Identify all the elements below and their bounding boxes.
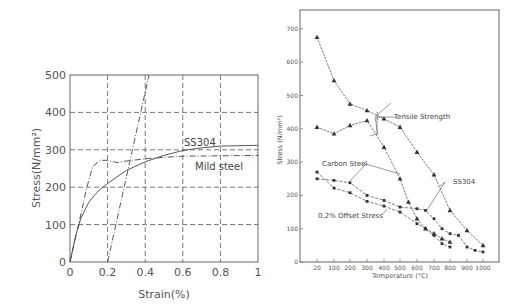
x-tick-label: 800 xyxy=(444,264,456,271)
annotation-ss304: SS304 xyxy=(453,178,476,186)
x-tick-label: 0.2 xyxy=(99,266,117,279)
y-tick-label: 400 xyxy=(287,125,299,132)
x-tick-label: 1 xyxy=(255,266,262,279)
annotation-offset-stress: 0.2% Offset Stress xyxy=(318,212,383,220)
x-tick-label: 1000 xyxy=(475,264,490,271)
data-point-ss304-0-2-offset-stress xyxy=(449,232,452,235)
data-point-ss304-tensile-strength xyxy=(315,35,320,39)
annotation-ss304: SS304 xyxy=(184,137,216,148)
data-point-carbon-steel-0-2-offset-stress xyxy=(366,200,369,203)
data-point-ss304-0-2-offset-stress xyxy=(424,209,427,212)
y-tick-label: 0 xyxy=(59,256,66,269)
x-tick-label: 200 xyxy=(344,264,356,271)
y-tick-label: 300 xyxy=(287,158,299,165)
leader-ss304-to-ys xyxy=(427,182,445,210)
y-tick-label: 700 xyxy=(287,25,299,32)
y-tick-label: 300 xyxy=(45,144,66,157)
y-tick-label: 200 xyxy=(287,191,299,198)
annotation-mild-steel: Mild steel xyxy=(195,161,243,172)
x-axis-label: Temperature (°C) xyxy=(371,272,428,280)
data-point-carbon-steel-0-2-offset-stress xyxy=(333,187,336,190)
y-tick-label: 200 xyxy=(45,181,66,194)
leader-tensile-to-cs xyxy=(375,117,378,135)
data-point-ss304-0-2-offset-stress xyxy=(399,206,402,209)
data-point-carbon-steel-0-2-offset-stress xyxy=(416,222,419,225)
data-point-carbon-steel-tensile-strength xyxy=(365,118,370,122)
x-tick-label: 0.6 xyxy=(174,266,192,279)
plot-frame xyxy=(300,10,499,262)
stress-strain-chart: 0100200300400500 00.20.40.60.81 Strain(%… xyxy=(30,69,262,301)
y-tick-label: 500 xyxy=(45,69,66,82)
data-point-ss304-0-2-offset-stress xyxy=(366,194,369,197)
data-point-ss304-tensile-strength xyxy=(448,208,453,212)
data-point-carbon-steel-0-2-offset-stress xyxy=(349,191,352,194)
data-point-carbon-steel-0-2-offset-stress xyxy=(399,211,402,214)
data-point-ss304-0-2-offset-stress xyxy=(482,251,485,254)
leader-tensile-to-ss xyxy=(375,103,391,117)
y-tick-label: 100 xyxy=(45,219,66,232)
series-line-carbon-steel-tensile-strength xyxy=(317,121,450,243)
x-axis-label: Strain(%) xyxy=(138,288,190,301)
data-point-carbon-steel-0-2-offset-stress xyxy=(449,246,452,249)
data-point-ss304-tensile-strength xyxy=(465,228,470,232)
data-point-carbon-steel-tensile-strength xyxy=(382,145,387,149)
x-tick-label: 300 xyxy=(361,264,373,271)
data-point-ss304-0-2-offset-stress xyxy=(466,246,469,249)
data-point-carbon-steel-tensile-strength xyxy=(315,125,320,129)
x-tick-label: 20 xyxy=(313,264,321,271)
data-point-carbon-steel-tensile-strength xyxy=(406,199,411,203)
data-point-ss304-0-2-offset-stress xyxy=(333,179,336,182)
series-line-0-2-offset-line xyxy=(108,75,149,262)
data-point-ss304-0-2-offset-stress xyxy=(349,181,352,184)
data-point-ss304-0-2-offset-stress xyxy=(441,227,444,230)
data-point-ss304-0-2-offset-stress xyxy=(416,207,419,210)
data-point-carbon-steel-tensile-strength xyxy=(415,216,420,220)
data-point-carbon-steel-0-2-offset-stress xyxy=(441,242,444,245)
y-tick-label: 500 xyxy=(287,92,299,99)
data-point-carbon-steel-tensile-strength xyxy=(332,131,337,135)
data-point-carbon-steel-0-2-offset-stress xyxy=(316,171,319,174)
data-point-carbon-steel-tensile-strength xyxy=(348,123,353,127)
data-point-ss304-tensile-strength xyxy=(398,125,403,129)
x-tick-label: 400 xyxy=(378,264,390,271)
data-point-ss304-0-2-offset-stress xyxy=(433,217,436,220)
data-point-ss304-0-2-offset-stress xyxy=(457,234,460,237)
y-tick-label: 400 xyxy=(45,106,66,119)
data-point-carbon-steel-0-2-offset-stress xyxy=(424,227,427,230)
y-tick-label: 600 xyxy=(287,58,299,65)
x-tick-label: 0 xyxy=(67,266,74,279)
data-point-ss304-0-2-offset-stress xyxy=(474,249,477,252)
annotation-tensile-strength: Tensile Strength xyxy=(393,113,450,121)
y-tick-label: 0 xyxy=(294,258,298,265)
y-axis-label: Stress(N/mm²) xyxy=(30,128,43,208)
x-tick-label: 600 xyxy=(411,264,423,271)
data-point-ss304-0-2-offset-stress xyxy=(316,177,319,180)
x-tick-label: 900 xyxy=(461,264,473,271)
data-point-carbon-steel-tensile-strength xyxy=(398,176,403,180)
x-tick-label: 700 xyxy=(428,264,440,271)
y-axis-label: Stress (N/mm²) xyxy=(276,115,284,164)
x-tick-label: 0.8 xyxy=(212,266,230,279)
data-point-carbon-steel-0-2-offset-stress xyxy=(383,205,386,208)
data-point-ss304-tensile-strength xyxy=(332,78,337,82)
x-tick-label: 100 xyxy=(328,264,340,271)
y-tick-label: 100 xyxy=(287,225,299,232)
data-point-ss304-0-2-offset-stress xyxy=(383,199,386,202)
figure: 0100200300400500 00.20.40.60.81 Strain(%… xyxy=(0,0,525,305)
x-tick-label: 500 xyxy=(394,264,406,271)
annotation-carbon-steel: Carbon Steel xyxy=(322,160,367,168)
stress-temperature-chart: 0100200300400500600700 20100200300400500… xyxy=(276,10,499,280)
series-line-carbon-steel-0-2-offset-stress xyxy=(317,172,450,247)
data-point-carbon-steel-tensile-strength xyxy=(440,236,445,240)
data-point-carbon-steel-0-2-offset-stress xyxy=(433,234,436,237)
x-tick-label: 0.4 xyxy=(136,266,154,279)
